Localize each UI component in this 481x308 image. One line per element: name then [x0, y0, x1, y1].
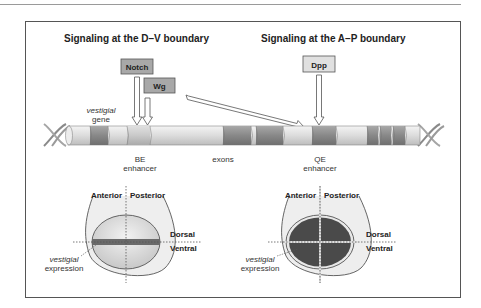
notch-signal: Notch — [121, 59, 153, 74]
be-label-line1: BE — [135, 155, 146, 164]
gene-label-line1: vestigial — [87, 106, 116, 115]
right-posterior-label: Posterior — [324, 191, 359, 200]
gene-label-line2: gene — [92, 115, 110, 124]
right-expression-label-line2: expression — [241, 264, 280, 273]
qe-label-line2: enhancer — [303, 164, 337, 173]
wg-arrow-icon — [143, 98, 153, 125]
right-ventral-label: Ventral — [366, 244, 393, 253]
dpp-signal: Dpp — [303, 56, 335, 72]
wg-signal: Wg — [144, 78, 175, 93]
qe-label-line1: QE — [314, 155, 326, 164]
wg-to-qe-arrow-icon — [186, 95, 304, 130]
left-expression-label-line2: expression — [45, 264, 84, 273]
exons-label: exons — [212, 155, 233, 164]
right-expression-label-line1: vestigial — [246, 255, 275, 264]
left-anterior-label: Anterior — [91, 191, 122, 200]
dna-helix-right-icon — [418, 124, 444, 146]
right-panel-title: Signaling at the A–P boundary — [261, 33, 406, 44]
vestigial-gene-bar — [66, 126, 421, 145]
right-anterior-label: Anterior — [285, 191, 316, 200]
svg-text:Notch: Notch — [126, 63, 149, 72]
figure-diagram: Signaling at the D–V boundary Signaling … — [0, 0, 481, 308]
left-panel-title: Signaling at the D–V boundary — [64, 33, 209, 44]
be-label-line2: enhancer — [123, 164, 157, 173]
svg-text:Dpp: Dpp — [311, 61, 327, 70]
left-expression-label-line1: vestigial — [50, 255, 79, 264]
be-enhancer-segment — [127, 126, 150, 145]
left-posterior-label: Posterior — [130, 191, 165, 200]
qe-enhancer-segment — [312, 126, 336, 145]
right-dorsal-label: Dorsal — [366, 230, 391, 239]
svg-text:Wg: Wg — [153, 82, 166, 91]
left-ventral-label: Ventral — [170, 244, 197, 253]
notch-arrow-icon — [132, 77, 142, 125]
left-dorsal-label: Dorsal — [170, 230, 195, 239]
dpp-arrow-icon — [314, 75, 324, 125]
